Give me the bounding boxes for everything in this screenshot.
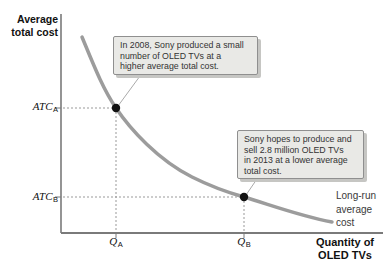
- callout-a-line2: number of OLED TVs at a: [120, 51, 251, 62]
- x-axis-title-line1: Quantity of: [303, 236, 387, 249]
- lrac-figure: Average total cost Quantity of OLED TVs …: [0, 0, 389, 265]
- qa-subscript: A: [118, 240, 123, 249]
- curve-label-long-run-average-cost: Long-run average cost: [336, 189, 388, 230]
- curve-label-line2: average: [336, 203, 388, 217]
- curve-label-line1: Long-run: [336, 189, 388, 203]
- atc-a-tick-label: ATCA: [16, 100, 58, 112]
- callout-a-line1: In 2008, Sony produced a small: [120, 40, 251, 51]
- callout-b-line2: sell 2.8 million OLED TVs: [244, 145, 357, 156]
- qa-tick-label: QA: [96, 235, 136, 247]
- point-b-dot: [240, 193, 248, 201]
- atc-a-subscript: A: [53, 105, 58, 114]
- y-axis-title: Average total cost: [4, 13, 58, 39]
- callout-b-line3: in 2013 at a lower average: [244, 155, 357, 166]
- qb-subscript: B: [246, 240, 251, 249]
- callout-2013-point-b: Sony hopes to produce and sell 2.8 milli…: [237, 130, 364, 179]
- atc-b-tick-label: ATCB: [16, 190, 58, 202]
- y-axis-title-line1: Average: [4, 13, 58, 26]
- qb-tick-label: QB: [224, 235, 264, 247]
- qa-variable: Q: [109, 235, 117, 247]
- callout-b-line1: Sony hopes to produce and: [244, 134, 357, 145]
- callout-b-line4: total cost.: [244, 166, 357, 177]
- callout-a-line3: higher average total cost.: [120, 61, 251, 72]
- qb-variable: Q: [237, 235, 245, 247]
- callout-a-leader-line: [118, 76, 140, 106]
- x-axis-title-line2: OLED TVs: [303, 249, 387, 262]
- point-a-dot: [112, 104, 120, 112]
- atc-a-variable: ATC: [33, 100, 53, 112]
- x-axis-title: Quantity of OLED TVs: [303, 236, 387, 261]
- y-axis-title-line2: total cost: [4, 26, 58, 39]
- atc-b-variable: ATC: [33, 190, 53, 202]
- curve-label-line3: cost: [336, 216, 388, 230]
- callout-2008-point-a: In 2008, Sony produced a small number of…: [113, 36, 258, 75]
- atc-b-subscript: B: [53, 195, 58, 204]
